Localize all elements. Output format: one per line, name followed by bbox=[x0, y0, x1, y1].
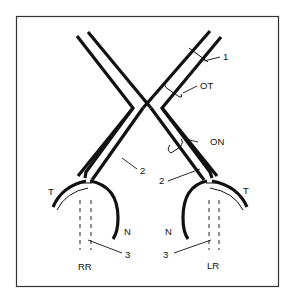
label-lr: LR bbox=[207, 260, 219, 271]
leader-1 bbox=[204, 57, 220, 61]
label-2-left: 2 bbox=[140, 165, 145, 176]
label-ot: OT bbox=[200, 80, 213, 91]
right-retina-nasal-arc bbox=[90, 181, 118, 239]
leader-3-right bbox=[174, 240, 211, 253]
left-retina-temporal-arc bbox=[212, 181, 247, 207]
label-3-left: 3 bbox=[125, 249, 130, 260]
label-3-right: 3 bbox=[163, 249, 168, 260]
leader-ot bbox=[183, 86, 197, 93]
crossing-fiber-to-right-retina-inner bbox=[162, 108, 217, 176]
label-rr: RR bbox=[78, 261, 92, 272]
crossing-fiber-to-right-retina-outer bbox=[151, 108, 204, 180]
crossing-fiber-to-left-retina-inner bbox=[78, 108, 133, 176]
crossing-fiber-to-left-retina-outer bbox=[92, 108, 143, 180]
left-retina-nasal-arc bbox=[183, 181, 207, 239]
label-n-left: N bbox=[124, 226, 131, 237]
right-retina-temporal-inner-arc bbox=[57, 188, 88, 210]
leader-2-right bbox=[168, 169, 200, 181]
label-n-right: N bbox=[165, 226, 172, 237]
leader-2-left bbox=[122, 158, 137, 169]
label-1: 1 bbox=[223, 51, 228, 62]
diagram-frame bbox=[17, 17, 279, 287]
optic-chiasm-diagram: 1 OT ON 2 2 T T N N 3 3 RR LR bbox=[0, 0, 295, 301]
label-on: ON bbox=[210, 136, 224, 147]
left-tract-outer-line bbox=[77, 36, 133, 178]
label-t-left: T bbox=[48, 186, 54, 197]
label-t-right: T bbox=[243, 185, 249, 196]
right-retina-temporal-arc bbox=[53, 181, 86, 207]
right-tract-outer-line bbox=[162, 37, 221, 178]
label-2-right: 2 bbox=[159, 175, 164, 186]
left-tract-inner-line bbox=[88, 32, 151, 108]
leader-3-left bbox=[88, 240, 122, 253]
right-tract-inner-line bbox=[143, 31, 210, 108]
left-retina-temporal-inner-arc bbox=[210, 188, 243, 210]
